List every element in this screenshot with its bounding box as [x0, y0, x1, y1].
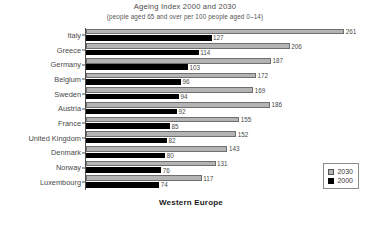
bar-line: 114 — [86, 50, 302, 56]
bar-line: 80 — [86, 153, 239, 159]
bar-value-label: 82 — [169, 137, 176, 144]
bar-line: 172 — [86, 73, 268, 79]
legend-swatch-icon-2030 — [328, 169, 334, 175]
bar-line: 155 — [86, 117, 251, 123]
bar-value-label: 85 — [172, 123, 179, 130]
bar-2030-germany — [86, 58, 271, 64]
bar-line: 187 — [86, 58, 283, 64]
bar-rows: Italy261127Greece206114Germany187103Belg… — [0, 28, 370, 190]
bar-value-label: 92 — [179, 108, 186, 115]
chart-row: Italy261127 — [0, 28, 370, 43]
axis-tick — [82, 94, 86, 95]
axis-tick — [82, 138, 86, 139]
bar-group: 15585 — [86, 117, 251, 131]
bar-line: 186 — [86, 102, 282, 108]
bar-2030-united-kingdom — [86, 131, 236, 137]
category-label-denmark: Denmark — [0, 148, 81, 157]
bar-line: 131 — [86, 161, 228, 167]
bar-2000-austria — [86, 109, 177, 115]
category-label-austria: Austria — [0, 104, 81, 113]
category-label-france: France — [0, 119, 81, 128]
bar-2030-norway — [86, 161, 216, 167]
axis-tick — [82, 64, 86, 65]
axis-tick — [82, 182, 86, 183]
bar-line: 74 — [86, 182, 213, 188]
bar-line: 76 — [86, 167, 228, 173]
axis-tick — [82, 167, 86, 168]
bar-2000-denmark — [86, 153, 165, 159]
chart-subtitle: (people aged 65 and over per 100 people … — [0, 12, 370, 21]
bar-group: 15282 — [86, 131, 248, 145]
bar-2030-greece — [86, 43, 290, 49]
bar-value-label: 206 — [291, 43, 302, 50]
axis-tick — [82, 152, 86, 153]
bar-2000-luxembourg — [86, 182, 159, 188]
bar-value-label: 131 — [217, 160, 228, 167]
legend-label-2030: 2030 — [337, 168, 353, 176]
chart-title-block: Ageing Index 2000 and 2030 (people aged … — [0, 2, 370, 21]
axis-tick — [82, 50, 86, 51]
bar-group: 206114 — [86, 43, 302, 57]
bar-value-label: 76 — [163, 167, 170, 174]
bar-value-label: 152 — [238, 131, 249, 138]
category-label-greece: Greece — [0, 46, 81, 55]
bar-value-label: 155 — [241, 116, 252, 123]
bar-value-label: 143 — [229, 145, 240, 152]
chart-legend: 2030 2000 — [323, 163, 359, 189]
bar-value-label: 94 — [180, 93, 187, 100]
bar-line: 152 — [86, 131, 248, 137]
bar-group: 16994 — [86, 87, 265, 101]
category-label-norway: Norway — [0, 163, 81, 172]
bar-line: 117 — [86, 175, 213, 181]
bar-line: 127 — [86, 35, 356, 41]
bar-value-label: 74 — [161, 181, 168, 188]
axis-tick — [82, 35, 86, 36]
bar-value-label: 187 — [272, 57, 283, 64]
bar-value-label: 261 — [346, 28, 357, 35]
bar-group: 187103 — [86, 58, 283, 72]
category-label-italy: Italy — [0, 31, 81, 40]
bar-2000-greece — [86, 50, 199, 56]
page-title: Ageing Index 2000 and 2030 — [0, 2, 370, 12]
chart-row: Austria18692 — [0, 101, 370, 116]
bar-line: 82 — [86, 138, 248, 144]
bar-value-label: 114 — [200, 49, 210, 56]
bar-2030-denmark — [86, 146, 227, 152]
category-label-united-kingdom: United Kingdom — [0, 134, 81, 143]
bar-group: 11774 — [86, 175, 213, 189]
bar-2000-sweden — [86, 94, 179, 100]
ageing-index-chart: Ageing Index 2000 and 2030 (people aged … — [0, 0, 370, 227]
chart-row: Germany187103 — [0, 57, 370, 72]
chart-row: Sweden16994 — [0, 87, 370, 102]
bar-2030-austria — [86, 102, 270, 108]
bar-line: 261 — [86, 29, 356, 35]
chart-row: Belgium17296 — [0, 72, 370, 87]
legend-label-2000: 2000 — [337, 177, 353, 185]
chart-row: Denmark14380 — [0, 146, 370, 161]
bar-2030-italy — [86, 29, 344, 35]
legend-item-2000: 2000 — [328, 176, 353, 185]
legend-swatch-icon-2000 — [328, 178, 334, 184]
chart-row: Greece206114 — [0, 43, 370, 58]
bar-group: 13176 — [86, 161, 228, 175]
bar-line: 94 — [86, 94, 265, 100]
bar-group: 18692 — [86, 102, 282, 116]
bar-value-label: 117 — [203, 175, 213, 182]
bar-2030-luxembourg — [86, 175, 202, 181]
x-axis-label: Western Europe — [86, 198, 296, 207]
bar-2030-sweden — [86, 87, 253, 93]
category-label-germany: Germany — [0, 60, 81, 69]
axis-tick — [82, 108, 86, 109]
bar-group: 261127 — [86, 29, 356, 43]
bar-value-label: 103 — [189, 64, 200, 71]
chart-row: Luxembourg11774 — [0, 175, 370, 190]
bar-line: 103 — [86, 64, 283, 70]
bar-line: 169 — [86, 87, 265, 93]
bar-2030-france — [86, 117, 239, 123]
bar-line: 92 — [86, 109, 282, 115]
bar-group: 14380 — [86, 146, 239, 160]
bar-2000-norway — [86, 167, 161, 173]
category-label-sweden: Sweden — [0, 90, 81, 99]
bar-value-label: 186 — [271, 101, 282, 108]
bar-2000-france — [86, 123, 170, 129]
